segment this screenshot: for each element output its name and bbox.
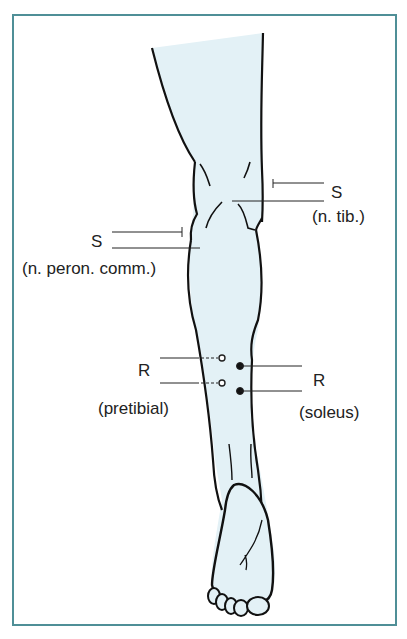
label-r-soleus-muscle: (soleus)	[299, 404, 359, 421]
label-s-peron: S	[91, 233, 102, 250]
stim-peron-lines	[112, 227, 200, 248]
label-s-peron-nerve: (n. peron. comm.)	[22, 260, 156, 277]
label-s-tib-nerve: (n. tib.)	[312, 208, 365, 225]
label-r-pretibial-muscle: (pretibial)	[98, 400, 169, 417]
label-r-soleus: R	[313, 372, 325, 389]
label-s-tib: S	[331, 184, 342, 201]
leg-illustration	[0, 0, 407, 639]
label-r-pretibial: R	[138, 362, 150, 379]
